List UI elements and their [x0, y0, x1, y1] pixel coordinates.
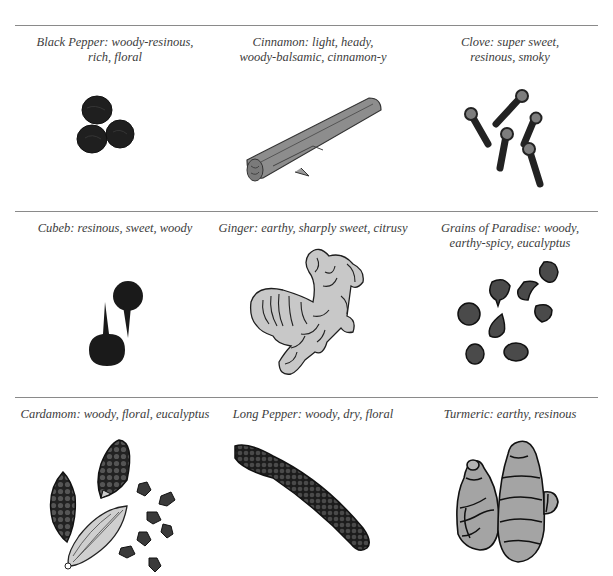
- spice-caption: Black Pepper: woody-resinous, rich, flor…: [15, 35, 215, 65]
- clove-icon: [410, 86, 610, 206]
- spice-caption: Cinnamon: light, heady, woody-balsamic, …: [213, 35, 413, 65]
- spice-caption: Long Pepper: woody, dry, floral: [213, 407, 413, 422]
- spice-card-long-pepper: Long Pepper: woody, dry, floral: [213, 398, 413, 576]
- spice-card-cardamom: Cardamom: woody, floral, eucalyptus: [15, 398, 215, 576]
- spice-caption: Clove: super sweet, resinous, smoky: [410, 35, 610, 65]
- spice-card-ginger: Ginger: earthy, sharply sweet, citrusy: [213, 212, 413, 397]
- spice-caption: Ginger: earthy, sharply sweet, citrusy: [213, 221, 413, 236]
- spice-caption: Cubeb: resinous, sweet, woody: [15, 221, 215, 236]
- spice-card-clove: Clove: super sweet, resinous, smoky: [410, 26, 610, 211]
- grains-of-paradise-icon: [410, 256, 610, 376]
- ginger-icon: [213, 242, 413, 392]
- spice-card-cubeb: Cubeb: resinous, sweet, woody: [15, 212, 215, 397]
- spice-caption: Grains of Paradise: woody, earthy-spicy,…: [410, 221, 610, 251]
- spice-caption: Cardamom: woody, floral, eucalyptus: [15, 407, 215, 422]
- spice-card-grains-of-paradise: Grains of Paradise: woody, earthy-spicy,…: [410, 212, 610, 397]
- spice-card-turmeric: Turmeric: earthy, resinous: [410, 398, 610, 576]
- spice-card-black-pepper: Black Pepper: woody-resinous, rich, flor…: [15, 26, 215, 211]
- black-pepper-icon: [15, 80, 215, 200]
- cardamom-icon: [15, 432, 215, 576]
- turmeric-icon: [410, 438, 610, 576]
- cubeb-icon: [15, 272, 215, 392]
- long-pepper-icon: [213, 438, 413, 576]
- spice-caption: Turmeric: earthy, resinous: [410, 407, 610, 422]
- spice-card-cinnamon: Cinnamon: light, heady, woody-balsamic, …: [213, 26, 413, 211]
- cinnamon-icon: [213, 76, 413, 196]
